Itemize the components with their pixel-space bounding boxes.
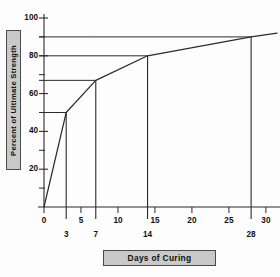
x-milestone-label-14: 14: [138, 230, 158, 239]
strength-curve: [44, 33, 277, 207]
x-tick-label-0: 0: [34, 216, 54, 225]
x-milestone-label-7: 7: [86, 230, 106, 239]
y-axis-title-text: Percent of Ultimate Strength: [9, 45, 18, 156]
x-tick-label-5: 5: [71, 216, 91, 225]
y-tick-label-100: 100: [14, 13, 38, 22]
x-milestone-label-3: 3: [56, 230, 76, 239]
x-axis-title-text: Days of Curing: [128, 253, 192, 263]
x-axis-title: Days of Curing: [103, 250, 216, 266]
x-milestone-label-28: 28: [241, 230, 261, 239]
x-tick-label-10: 10: [108, 216, 128, 225]
x-tick-label-30: 30: [256, 216, 276, 225]
y-tick-label-80: 80: [14, 51, 38, 60]
y-tick-label-60: 60: [14, 89, 38, 98]
curing-strength-chart: Percent of Ultimate Strength Days of Cur…: [0, 0, 280, 277]
x-tick-label-25: 25: [219, 216, 239, 225]
x-tick-label-20: 20: [182, 216, 202, 225]
x-tick-label-15: 15: [145, 216, 165, 225]
y-tick-label-40: 40: [14, 126, 38, 135]
y-tick-label-20: 20: [14, 164, 38, 173]
